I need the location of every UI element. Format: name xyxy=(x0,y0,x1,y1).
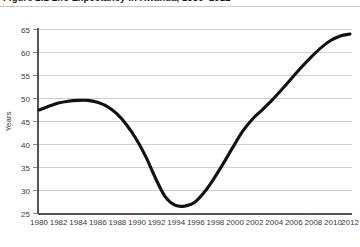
x-tick-label: 1990 xyxy=(128,218,146,227)
y-tick-label: 60 xyxy=(21,49,30,58)
x-tick-label: 1982 xyxy=(50,218,68,227)
title-divider xyxy=(0,6,360,7)
figure-title-strip: Figure 2.1 Life Expectancy in Rwanda, 19… xyxy=(0,0,360,5)
x-tick-label: 1980 xyxy=(30,218,48,227)
figure-title: Figure 2.1 Life Expectancy in Rwanda, 19… xyxy=(3,0,231,3)
x-tick-label: 2008 xyxy=(305,218,323,227)
x-tick-label: 1984 xyxy=(69,218,87,227)
figure-container: Figure 2.1 Life Expectancy in Rwanda, 19… xyxy=(0,0,360,247)
plot-background xyxy=(0,8,360,247)
y-tick-labels: 65 60 55 50 45 40 35 30 25 xyxy=(21,26,30,219)
x-tick-label: 1988 xyxy=(109,218,127,227)
x-tick-label: 1998 xyxy=(207,218,225,227)
chart-svg: 65 60 55 50 45 40 35 30 25 Years 1980 19… xyxy=(0,8,360,247)
x-tick-label: 1992 xyxy=(148,218,166,227)
x-tick-label: 1996 xyxy=(187,218,205,227)
y-tick-label: 40 xyxy=(21,141,30,150)
y-tick-label: 45 xyxy=(21,118,30,127)
y-tick-label: 50 xyxy=(21,95,30,104)
x-tick-label: 2006 xyxy=(285,218,303,227)
line-chart: 65 60 55 50 45 40 35 30 25 Years 1980 19… xyxy=(0,8,360,247)
x-tick-label: 1986 xyxy=(89,218,107,227)
x-tick-label: 2010 xyxy=(324,218,342,227)
y-axis-title: Years xyxy=(4,111,13,131)
x-tick-label: 2012 xyxy=(341,218,359,227)
x-tick-label: 2004 xyxy=(265,218,283,227)
x-tick-label: 2000 xyxy=(226,218,244,227)
x-tick-label: 1994 xyxy=(167,218,185,227)
x-tick-labels: 1980 1982 1984 1986 1988 1990 1992 1994 … xyxy=(30,218,359,227)
y-tick-label: 35 xyxy=(21,164,30,173)
x-tick-label: 2002 xyxy=(246,218,264,227)
y-tick-label: 65 xyxy=(21,26,30,35)
y-tick-label: 55 xyxy=(21,72,30,81)
y-tick-label: 30 xyxy=(21,187,30,196)
